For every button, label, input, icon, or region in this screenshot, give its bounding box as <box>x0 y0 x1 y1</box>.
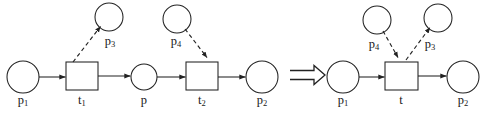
place-p2-left[interactable] <box>246 61 278 93</box>
left-net-group <box>7 3 278 93</box>
label-place-p4-right: p4 <box>369 37 380 52</box>
label-place-p1-right: p1 <box>338 93 349 108</box>
label-transition-t2-left: t2 <box>198 93 206 108</box>
label-place-p3-left: p3 <box>105 34 116 49</box>
petri-net-canvas <box>0 0 488 118</box>
label-place-p2-right: p2 <box>458 93 469 108</box>
label-place-p-left: p <box>141 93 147 108</box>
place-p1-right[interactable] <box>327 61 359 93</box>
label-place-p4-left: p4 <box>171 34 182 49</box>
label-transition-t1-left: t1 <box>78 93 86 108</box>
label-transition-t-right: t <box>399 93 403 108</box>
arc-p4-to-t-right <box>383 31 398 58</box>
transition-t1-left[interactable] <box>66 62 98 90</box>
label-text: p <box>141 93 147 107</box>
transition-t-right[interactable] <box>385 62 418 90</box>
label-place-p3-right: p3 <box>425 37 436 52</box>
label-subscript: 4 <box>375 42 379 52</box>
place-p3-left[interactable] <box>95 3 123 31</box>
implies-arrow-glyph <box>290 66 325 85</box>
place-p1-left[interactable] <box>7 61 39 93</box>
label-subscript: 3 <box>111 39 115 49</box>
petri-net-transformation-figure: p1 p3 p p4 p2 t1 t2 p1 p4 p3 p2 t <box>0 0 488 118</box>
place-p4-left[interactable] <box>163 5 191 33</box>
label-subscript: 3 <box>431 42 435 52</box>
label-place-p2-left: p2 <box>257 93 268 108</box>
label-subscript: 1 <box>82 98 86 108</box>
right-net-group <box>327 4 479 93</box>
arc-p4-to-t2-left <box>185 29 207 58</box>
label-subscript: 2 <box>202 98 206 108</box>
place-p-left[interactable] <box>131 64 157 90</box>
place-p4-right[interactable] <box>363 6 391 34</box>
place-p2-right[interactable] <box>447 61 479 93</box>
label-subscript: 4 <box>177 39 181 49</box>
label-subscript: 1 <box>344 98 348 108</box>
transition-t2-left[interactable] <box>186 62 218 90</box>
label-subscript: 2 <box>263 98 267 108</box>
label-subscript: 2 <box>464 98 468 108</box>
place-p3-right[interactable] <box>424 4 452 32</box>
label-subscript: 1 <box>24 98 28 108</box>
label-place-p1-left: p1 <box>18 93 29 108</box>
arc-t1-to-p3-left <box>73 27 101 63</box>
label-text: t <box>399 93 403 107</box>
